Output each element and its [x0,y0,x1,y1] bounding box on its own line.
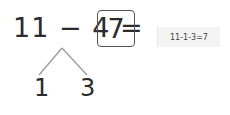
left-branch-line [39,48,62,75]
decomposition-right: 3 [80,74,95,102]
hint-text: 11-1-3=7 [170,33,208,42]
decomposition-left: 1 [34,74,49,102]
hint-label: 11-1-3=7 [157,27,220,47]
right-branch-line [62,48,87,75]
